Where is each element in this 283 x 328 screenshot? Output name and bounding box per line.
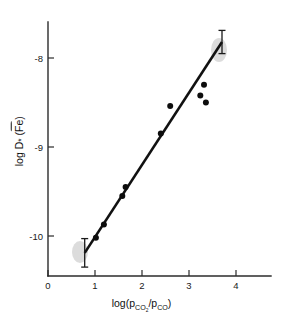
y-tick-label-minus8: -8 <box>35 53 43 64</box>
data-point <box>203 100 209 106</box>
figure-container: 0 1 2 3 4 -8 -9 -10 <box>0 0 283 328</box>
y-label-asterisk: * <box>16 138 26 141</box>
y-axis-label: log D* (Fe) <box>14 76 25 206</box>
y-tick-label-minus9: -9 <box>35 142 43 153</box>
y-axis-label-text: log D* (Fe) <box>13 116 25 166</box>
x-tick-label-2: 2 <box>139 280 144 291</box>
x-tick-label-0: 0 <box>45 280 50 291</box>
y-label-open-paren: ( <box>13 132 25 136</box>
data-point <box>197 92 203 98</box>
data-point <box>93 235 99 241</box>
data-point <box>158 131 164 137</box>
x-label-close: ) <box>168 297 172 309</box>
x-label-log: log(p <box>112 297 135 309</box>
data-points <box>93 82 209 241</box>
data-point <box>201 82 207 88</box>
data-point <box>123 184 129 190</box>
data-point <box>119 193 125 199</box>
y-label-element-fe: Fe <box>14 120 25 132</box>
x-axis-tick-labels: 0 1 2 3 4 <box>45 280 238 291</box>
x-axis-label: log(pCO2/pCO) <box>0 298 283 309</box>
fit-line <box>85 42 222 253</box>
x-label-sub-co-2: CO <box>157 304 168 312</box>
y-axis-tick-labels: -8 -9 -10 <box>29 53 43 242</box>
x-axis-ticks <box>48 270 236 276</box>
scatter-plot: 0 1 2 3 4 -8 -9 -10 <box>0 0 283 328</box>
data-point <box>167 103 173 109</box>
y-tick-label-minus10: -10 <box>29 231 43 242</box>
x-tick-label-3: 3 <box>186 280 191 291</box>
smudge-upper-right <box>211 38 227 62</box>
y-label-fe-text: Fe <box>13 120 25 132</box>
x-axis-label-text: log(pCO2/pCO) <box>112 297 172 309</box>
data-point <box>101 221 107 227</box>
x-label-sub-co: CO <box>135 304 146 312</box>
x-tick-label-1: 1 <box>92 280 97 291</box>
x-label-mid: /p <box>148 297 157 309</box>
x-label-sub-co2: CO2 <box>135 304 148 312</box>
x-tick-label-4: 4 <box>233 280 238 291</box>
x-label-sub-2: 2 <box>146 308 149 313</box>
y-axis-ticks <box>48 58 54 236</box>
y-label-logd: log D <box>13 142 25 167</box>
